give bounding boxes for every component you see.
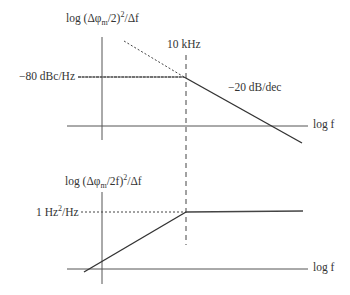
bottom-flat-line [186, 211, 303, 212]
bottom-y-axis-label: log (Δφm/2f)2/Δf [65, 173, 142, 190]
top-y-axis-label: log (Δφm/2)2/Δf [66, 10, 139, 27]
slope-label: −20 dB/dec [228, 81, 281, 93]
corner-frequency-label: 10 kHz [167, 38, 201, 50]
top-x-axis-label: log f [313, 118, 334, 130]
top-level-label: −80 dBc/Hz [19, 70, 75, 82]
bottom-rising-line [84, 212, 186, 272]
bottom-x-axis-label: log f [313, 261, 334, 273]
bottom-level-label: 1 Hz2/Hz [36, 204, 79, 218]
